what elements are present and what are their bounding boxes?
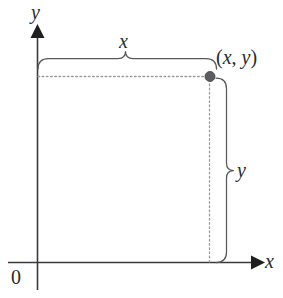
point-label-close-paren: ) (250, 46, 257, 68)
origin-label: 0 (11, 267, 21, 287)
horizontal-brace-label: x (119, 31, 128, 51)
point-label-x: x (223, 46, 232, 68)
vertical-brace-label: y (237, 160, 246, 180)
point-coordinate-label: (x, y) (216, 47, 257, 67)
x-axis (8, 256, 265, 270)
y-axis (31, 24, 45, 290)
point-label-comma: , (232, 46, 242, 68)
x-axis-arrowhead (251, 256, 265, 270)
x-axis-label: x (265, 251, 274, 271)
horizontal-brace (38, 52, 217, 70)
y-axis-label: y (31, 2, 40, 22)
y-axis-arrowhead (31, 24, 45, 38)
point-label-open-paren: ( (216, 46, 223, 68)
coordinate-diagram: y x 0 x y (x, y) (0, 0, 283, 298)
point-marker (205, 72, 215, 82)
diagram-canvas (0, 0, 283, 298)
vertical-brace (216, 78, 234, 263)
